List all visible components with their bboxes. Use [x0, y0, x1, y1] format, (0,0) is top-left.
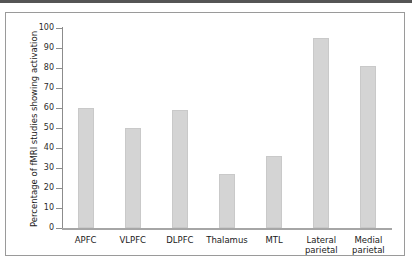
x-axis-label-line: Medial	[345, 235, 392, 245]
y-axis-tick-label: 10	[28, 204, 54, 212]
bar	[78, 108, 94, 228]
x-axis-label-line: APFC	[62, 235, 109, 245]
y-axis-tick-label: 70	[28, 84, 54, 92]
x-axis-label-line: Thalamus	[203, 235, 250, 245]
bar	[219, 174, 235, 228]
bar-chart-plot-area: Percentage of fMRI studies showing activ…	[0, 0, 412, 273]
y-axis-tick	[56, 108, 62, 109]
y-axis-tick-label-text: 10	[30, 204, 54, 212]
y-axis-tick	[56, 188, 62, 189]
y-axis-tick	[56, 48, 62, 49]
x-axis-label-line: MTL	[251, 235, 298, 245]
y-axis-tick-label-text: 30	[30, 164, 54, 172]
y-axis-tick	[56, 208, 62, 209]
x-axis-label-line: VLPFC	[109, 235, 156, 245]
y-axis-tick-label: 60	[28, 104, 54, 112]
y-axis-tick	[56, 228, 62, 229]
y-axis-tick-label: 40	[28, 144, 54, 152]
x-axis-label: Thalamus	[203, 235, 250, 245]
y-axis-tick-label: 100	[28, 24, 54, 32]
y-axis-tick	[56, 88, 62, 89]
y-axis-tick-label-text: 70	[30, 84, 54, 92]
y-axis-tick	[56, 168, 62, 169]
y-axis-tick-label-text: 40	[30, 144, 54, 152]
bar	[360, 66, 376, 228]
y-axis-tick-label: 30	[28, 164, 54, 172]
x-axis-label: MTL	[251, 235, 298, 245]
x-axis-label-line: parietal	[298, 245, 345, 255]
y-axis-tick-label: 80	[28, 64, 54, 72]
bar	[313, 38, 329, 228]
x-axis-label: Medialparietal	[345, 235, 392, 255]
y-axis-tick-label: 0	[28, 224, 54, 232]
bar	[266, 156, 282, 228]
bar	[125, 128, 141, 228]
y-axis-tick	[56, 68, 62, 69]
y-axis-tick-label-text: 80	[30, 64, 54, 72]
y-axis-line	[62, 27, 63, 229]
y-axis-tick-label: 20	[28, 184, 54, 192]
y-axis-tick-label: 90	[28, 44, 54, 52]
y-axis-tick-label-text: 100	[30, 24, 54, 32]
y-axis-tick	[56, 148, 62, 149]
y-axis-tick	[56, 128, 62, 129]
x-axis-label: Lateralparietal	[298, 235, 345, 255]
y-axis-tick-label-text: 60	[30, 104, 54, 112]
y-axis-tick-label-text: 90	[30, 44, 54, 52]
y-axis-tick-label-text: 20	[30, 184, 54, 192]
y-axis-tick-label-text: 50	[30, 124, 54, 132]
x-axis-label: DLPFC	[156, 235, 203, 245]
x-axis-label: APFC	[62, 235, 109, 245]
x-axis-label: VLPFC	[109, 235, 156, 245]
x-axis-label-line: parietal	[345, 245, 392, 255]
x-axis-line	[62, 228, 392, 230]
bar	[172, 110, 188, 228]
y-axis-tick-label: 50	[28, 124, 54, 132]
y-axis-tick	[56, 28, 62, 29]
x-axis-label-line: Lateral	[298, 235, 345, 245]
x-axis-label-line: DLPFC	[156, 235, 203, 245]
y-axis-tick-label-text: 0	[30, 224, 54, 232]
